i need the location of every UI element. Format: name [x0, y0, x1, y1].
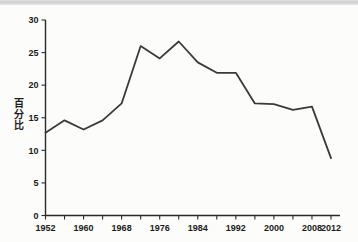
- x-tick-label: 1960: [74, 223, 94, 233]
- y-tick-label: 20: [28, 80, 38, 90]
- x-tick-label: 1968: [112, 223, 132, 233]
- data-series-line: [46, 42, 332, 159]
- x-tick-label: 2000: [264, 223, 284, 233]
- y-tick-label: 10: [28, 146, 38, 156]
- y-tick-label: 5: [33, 178, 38, 188]
- y-tick-label: 25: [28, 48, 38, 58]
- x-axis: 195219601968197619841992200020082012: [35, 216, 341, 233]
- y-axis: 051015202530: [28, 15, 45, 221]
- y-tick-label: 30: [28, 15, 38, 25]
- x-axis-tick-labels: 195219601968197619841992200020082012: [35, 223, 341, 233]
- y-axis-tick-labels: 051015202530: [28, 15, 38, 221]
- y-axis-title-char: 比: [14, 119, 24, 131]
- line-chart: 051015202530 195219601968197619841992200…: [0, 0, 358, 242]
- chart-svg: 051015202530 195219601968197619841992200…: [0, 0, 358, 242]
- x-tick-label: 1984: [188, 223, 208, 233]
- y-axis-title-char: 分: [14, 108, 24, 120]
- y-axis-title-char: 百: [14, 98, 24, 109]
- x-tick-label: 1976: [150, 223, 170, 233]
- y-axis-title: 百分比: [14, 98, 24, 131]
- y-tick-label: 0: [33, 211, 38, 221]
- x-tick-label: 1952: [35, 223, 55, 233]
- y-tick-label: 15: [28, 113, 38, 123]
- x-tick-label: 2012: [321, 223, 341, 233]
- x-tick-label: 2008: [302, 223, 322, 233]
- x-tick-label: 1992: [226, 223, 246, 233]
